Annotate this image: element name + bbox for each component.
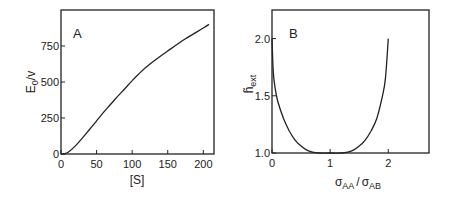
- chart-b-x-label: σAA/σAB: [335, 175, 381, 191]
- figure: 050100150200 0250500750 A [S] E0/v 012 1…: [0, 0, 449, 199]
- x-tick-label: 1: [327, 157, 333, 169]
- svg-text:E0/v: E0/v: [24, 71, 40, 93]
- chart-b-curve: [272, 39, 388, 153]
- y-tick-label: 0: [53, 148, 59, 160]
- chart-b-y-label: h̃ext: [242, 74, 258, 93]
- y-tick-label: 500: [41, 76, 59, 88]
- chart-a-frame: [61, 10, 214, 154]
- x-tick-label: 150: [159, 158, 177, 170]
- chart-a-x-label: [S]: [130, 173, 145, 187]
- y-tick-label: 2.0: [255, 33, 270, 45]
- chart-b-x-ticks: 012: [269, 149, 391, 169]
- y-tick-label: 750: [41, 40, 59, 52]
- chart-a-panel-label: A: [73, 26, 82, 41]
- chart-a-curve: [61, 24, 209, 154]
- x-tick-label: 200: [194, 158, 212, 170]
- chart-a-x-ticks: 050100150200: [58, 150, 213, 170]
- chart-b-panel-label: B: [289, 26, 298, 41]
- chart-a-y-label: E0/v: [24, 71, 40, 93]
- x-tick-label: 100: [123, 158, 141, 170]
- svg-text:h̃ext: h̃ext: [242, 74, 258, 93]
- x-tick-label: 50: [90, 158, 102, 170]
- chart-b: 012 1.01.52.0 B σAA/σAB h̃ext: [242, 10, 429, 191]
- y-tick-label: 1.0: [255, 147, 270, 159]
- y-tick-label: 250: [41, 112, 59, 124]
- x-tick-label: 2: [385, 157, 391, 169]
- chart-a: 050100150200 0250500750 A [S] E0/v: [24, 10, 214, 187]
- y-tick-label: 1.5: [255, 90, 270, 102]
